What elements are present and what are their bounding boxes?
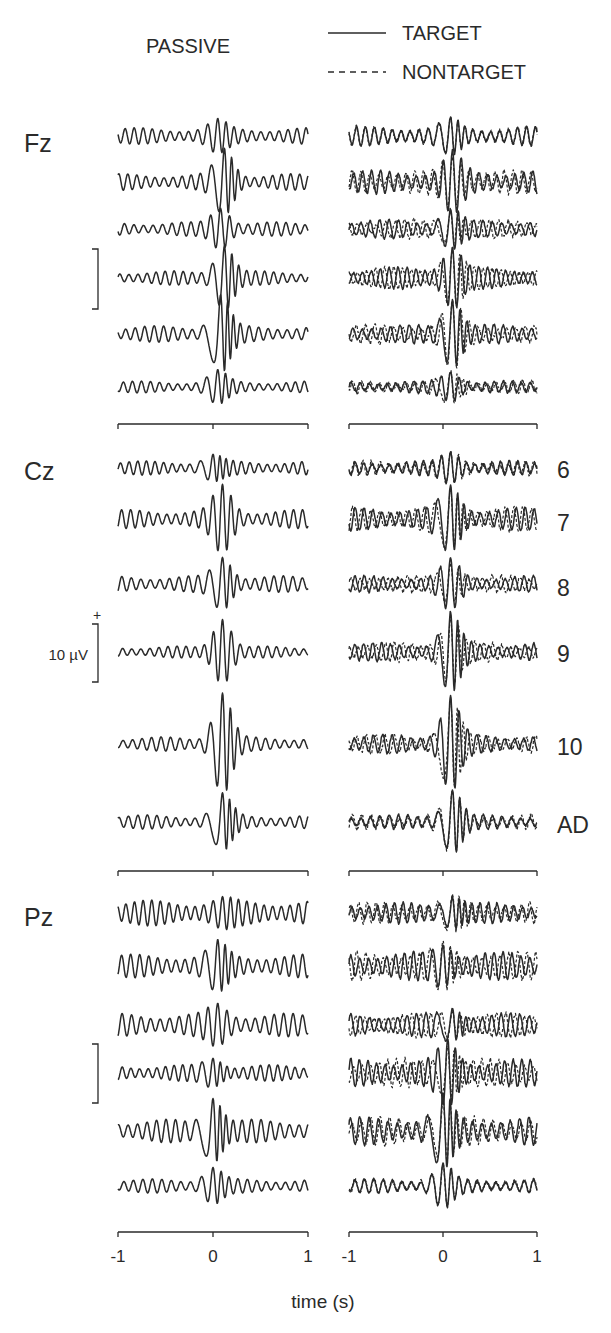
trace-active-target-cz-ad [349, 790, 537, 852]
time-axis-pz-active [349, 1232, 537, 1237]
electrode-label-pz: Pz [24, 903, 53, 931]
x-axis-label: time (s) [291, 1291, 354, 1312]
time-axis-fz-passive [118, 424, 308, 429]
legend: TARGET NONTARGET [328, 22, 526, 83]
traces [118, 117, 537, 1208]
trace-active-target-fz-6 [349, 117, 537, 155]
trace-passive-target-pz-9 [118, 1058, 308, 1087]
tick-label-right-1: 1 [532, 1247, 541, 1266]
row-label-9: 9 [557, 641, 570, 667]
tick-label-left-1: 1 [303, 1247, 312, 1266]
time-axis-cz-passive [118, 871, 308, 876]
trace-passive-target-fz-ad [118, 370, 308, 404]
trace-active-nontarget-pz-7 [349, 941, 537, 990]
trace-passive-target-pz-6 [118, 897, 308, 930]
trace-active-nontarget-pz-10 [349, 1101, 537, 1162]
trace-passive-target-cz-7 [118, 484, 308, 550]
scale-bar-fz [92, 249, 98, 309]
trace-passive-target-cz-9 [118, 620, 308, 681]
trace-passive-target-cz-ad [118, 793, 308, 849]
time-axis-cz-active [349, 871, 537, 876]
tick-label-left-neg1: -1 [110, 1247, 125, 1266]
trace-passive-target-cz-10 [118, 693, 308, 790]
scale-bar-polarity: + [93, 607, 101, 623]
trace-passive-target-pz-8 [118, 1004, 308, 1047]
scale-bar-pz [92, 1044, 98, 1103]
row-label-8: 8 [557, 575, 570, 601]
trace-active-target-pz-6 [349, 896, 537, 928]
trace-passive-target-fz-6 [118, 119, 308, 153]
trace-passive-target-cz-6 [118, 454, 308, 481]
trace-active-nontarget-pz-9 [349, 1046, 537, 1096]
electrode-label-fz: Fz [24, 129, 52, 157]
row-label-10: 10 [557, 734, 583, 760]
trace-active-target-pz-ad [349, 1163, 537, 1208]
row-label-7: 7 [557, 510, 570, 536]
trace-passive-target-pz-10 [118, 1099, 308, 1161]
trace-active-target-cz-10 [349, 696, 537, 788]
time-axes [118, 424, 537, 1237]
tick-label-right-neg1: -1 [341, 1247, 356, 1266]
trace-passive-target-cz-8 [118, 557, 308, 607]
column-title-passive: PASSIVE [146, 35, 230, 57]
trace-active-target-fz-8 [349, 208, 537, 249]
trace-active-nontarget-pz-ad [349, 1165, 537, 1207]
electrode-label-cz: Cz [24, 457, 55, 485]
legend-label-target: TARGET [402, 22, 482, 44]
row-label-ad: AD [557, 812, 589, 838]
eeg-figure: PASSIVE TARGET NONTARGET Fz Cz Pz 6 7 8 … [0, 0, 611, 1333]
scale-bar-cz [92, 624, 98, 682]
scale-bar-label: 10 µV [49, 646, 89, 663]
tick-label-left-0: 0 [208, 1247, 217, 1266]
trace-passive-target-fz-9 [118, 246, 308, 308]
legend-label-nontarget: NONTARGET [402, 61, 526, 83]
trace-active-nontarget-cz-6 [349, 452, 537, 483]
trace-passive-target-pz-ad [118, 1168, 308, 1204]
time-axis-fz-active [349, 424, 537, 429]
trace-passive-target-fz-7 [118, 148, 308, 212]
row-label-6: 6 [557, 457, 570, 483]
trace-passive-target-fz-8 [118, 208, 308, 247]
trace-active-nontarget-fz-9 [349, 247, 537, 305]
time-axis-pz-passive [118, 1232, 308, 1237]
trace-passive-target-fz-10 [118, 295, 308, 371]
tick-label-right-0: 0 [438, 1247, 447, 1266]
trace-passive-target-pz-7 [118, 940, 308, 991]
